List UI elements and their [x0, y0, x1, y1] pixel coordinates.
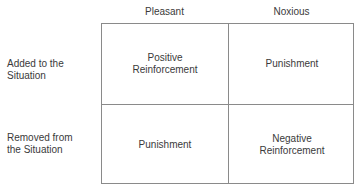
row-header-removed-line2: the Situation: [7, 144, 97, 156]
cell-removed-pleasant: Punishment: [102, 105, 228, 185]
cell-removed-pleasant-label: Punishment: [139, 139, 192, 151]
column-header-noxious: Noxious: [228, 6, 355, 17]
cell-removed-noxious-line2: Reinforcement: [259, 145, 324, 157]
cell-removed-noxious-line1: Negative: [259, 133, 324, 145]
cell-added-pleasant: Positive Reinforcement: [102, 24, 228, 104]
cell-added-noxious: Punishment: [229, 24, 355, 104]
matrix-grid: Positive Reinforcement Punishment Punish…: [101, 23, 354, 184]
row-header-removed-line1: Removed from: [7, 132, 97, 144]
row-header-removed: Removed from the Situation: [7, 132, 97, 156]
cell-added-pleasant-line1: Positive: [132, 52, 197, 64]
row-header-added-line2: Situation: [7, 70, 97, 82]
row-header-added: Added to the Situation: [7, 58, 97, 82]
cell-added-noxious-label: Punishment: [266, 58, 319, 70]
row-header-added-line1: Added to the: [7, 58, 97, 70]
column-header-pleasant: Pleasant: [101, 6, 228, 17]
cell-removed-noxious: Negative Reinforcement: [229, 105, 355, 185]
cell-added-pleasant-line2: Reinforcement: [132, 64, 197, 76]
